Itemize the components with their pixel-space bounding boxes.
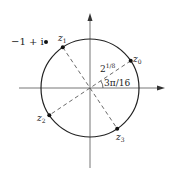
label-radius: 21/8 (100, 62, 116, 74)
imaginary-axis-arrow-icon (88, 13, 93, 21)
label-minus-1-plus-i: −1 + i (11, 36, 44, 47)
root-point-z3 (115, 127, 119, 131)
label-z3: z3 (115, 132, 125, 143)
angle-arc (101, 81, 103, 88)
real-axis-arrow-icon (157, 86, 165, 91)
label-z1: z1 (57, 33, 67, 44)
label-z2: z2 (36, 113, 46, 124)
point-minus-1-plus-i (44, 40, 48, 44)
label-z0: z0 (132, 54, 142, 65)
label-angle: 3π/16 (104, 78, 130, 88)
root-point-z2 (47, 113, 51, 117)
complex-plane-diagram: −1 + i z1 z0 z2 z3 21/8 3π/16 (0, 0, 174, 172)
root-point-z1 (61, 45, 65, 49)
